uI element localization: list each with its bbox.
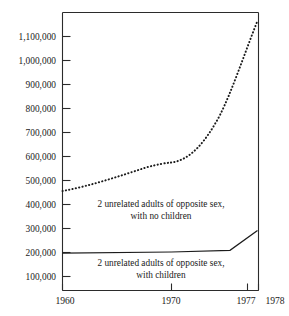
x-axis-label-1960: 1960	[55, 295, 74, 306]
x-tick-marks	[63, 284, 259, 291]
chart-container: 1,100,000 1,000,000 900,000 800,000 700,…	[0, 0, 289, 316]
annotation-no-children-line1: 2 unrelated adults of opposite sex,	[97, 199, 224, 209]
y-axis-label-600000: 600,000	[26, 152, 57, 162]
series-with-children-line	[63, 231, 258, 254]
annotation-no-children-line2: with no children	[131, 211, 192, 221]
y-axis-label-100000: 100,000	[26, 272, 57, 282]
line-chart: 1,100,000 1,000,000 900,000 800,000 700,…	[0, 0, 289, 316]
x-axis-label-1977: 1977	[236, 295, 255, 306]
x-axis-label-1978: 1978	[265, 295, 284, 306]
y-axis-label-900000: 900,000	[26, 80, 57, 90]
y-axis-label-700000: 700,000	[26, 128, 57, 138]
y-axis-label-1100000: 1,100,000	[19, 32, 57, 42]
y-axis-label-200000: 200,000	[26, 248, 57, 258]
y-tick-marks	[63, 37, 71, 277]
y-axis-label-500000: 500,000	[26, 176, 57, 186]
annotation-with-children-line2: with children	[136, 270, 186, 280]
y-axis-label-400000: 400,000	[26, 200, 57, 210]
y-axis-label-800000: 800,000	[26, 104, 57, 114]
series-no-children-line	[63, 22, 258, 191]
y-axis-label-1000000: 1,000,000	[19, 56, 57, 66]
annotation-with-children-line1: 2 unrelated adults of opposite sex,	[97, 258, 224, 268]
y-axis-label-300000: 300,000	[26, 224, 57, 234]
x-axis-label-1970: 1970	[161, 295, 180, 306]
